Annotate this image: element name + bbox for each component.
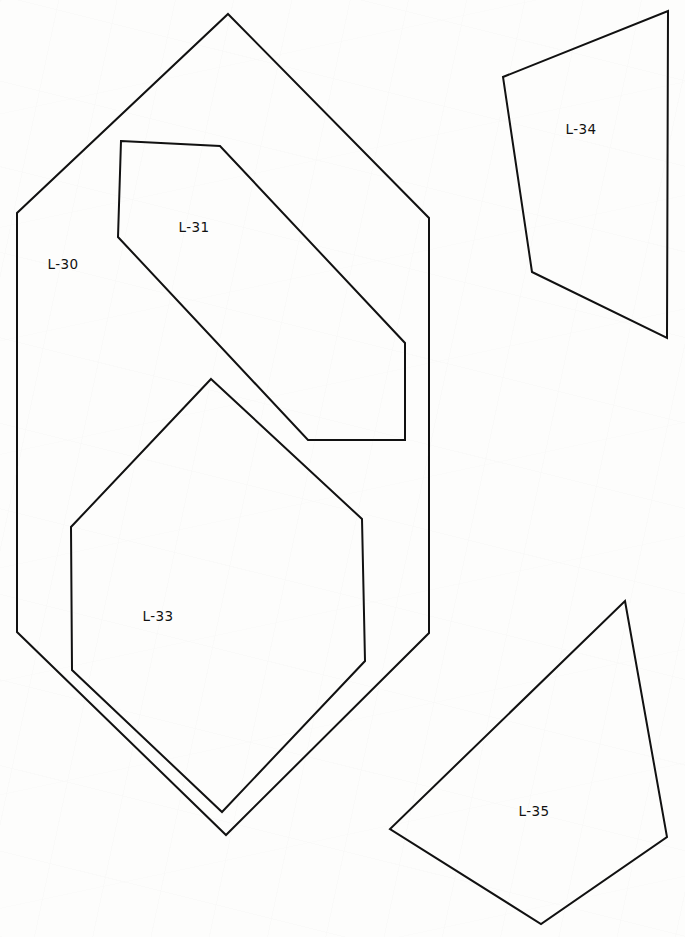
- parcel-label-L-31: L-31: [179, 219, 210, 235]
- parcel-drawing-canvas: L-30 L-31 L-33 L-34 L-35: [0, 0, 685, 937]
- parcel-label-L-35: L-35: [519, 803, 550, 819]
- parcel-label-L-33: L-33: [143, 608, 174, 624]
- parcel-label-L-34: L-34: [566, 121, 597, 137]
- parcel-map-svg: L-30 L-31 L-33 L-34 L-35: [0, 0, 685, 937]
- drawing-background: [0, 0, 685, 937]
- parcel-label-L-30: L-30: [48, 256, 79, 272]
